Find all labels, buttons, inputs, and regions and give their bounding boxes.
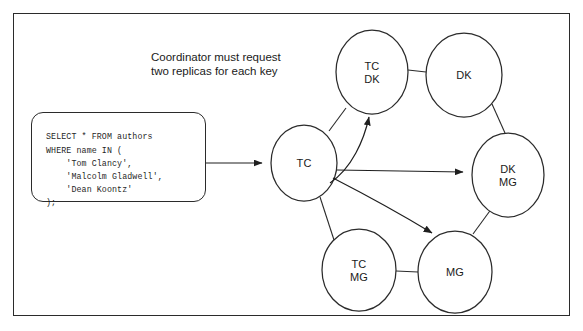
node-dkmg[interactable]: [472, 133, 544, 217]
link-dk-dkmg: [492, 104, 505, 133]
node-tc[interactable]: [271, 125, 337, 201]
diagram-caption: Coordinator must request two replicas fo…: [151, 50, 316, 78]
node-tcdk[interactable]: [336, 30, 408, 114]
link-tc-tcdk: [329, 108, 346, 131]
sql-query-box: SELECT * FROM authors WHERE name IN ( 'T…: [31, 112, 206, 202]
figure-canvas: TC TC DK DK DK MG MG TC MG Coordinator m…: [0, 0, 583, 331]
link-mg-tcmg: [396, 271, 418, 272]
node-tcmg[interactable]: [322, 229, 396, 311]
link-dkmg-mg: [473, 208, 492, 234]
node-dk[interactable]: [426, 33, 502, 117]
sql-query-text: SELECT * FROM authors WHERE name IN ( 'T…: [46, 130, 163, 209]
arrow-tc-to-dkmg: [337, 170, 463, 172]
link-tcdk-dk: [408, 70, 426, 72]
node-mg[interactable]: [418, 231, 492, 313]
arrow-tc-to-mg: [333, 178, 432, 233]
link-tcmg-tc: [320, 197, 334, 240]
